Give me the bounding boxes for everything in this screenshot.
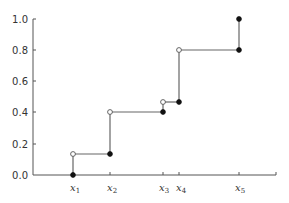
y-tick-label: 0.8 (12, 45, 28, 56)
filled-point (71, 173, 76, 178)
filled-point (177, 100, 182, 105)
filled-point (237, 17, 242, 22)
open-point (177, 48, 182, 53)
filled-points (71, 17, 242, 178)
filled-point (237, 48, 242, 53)
x-tick-label-x3: x3 (159, 182, 169, 195)
y-tick-label: 0.2 (12, 139, 28, 150)
step-function-chart: 0.0 0.2 0.4 0.6 0.8 1.0 x1 x2 x3 x4 x5 (0, 0, 289, 203)
x-tick-label-x2: x2 (107, 182, 117, 195)
y-tick-labels: 0.0 0.2 0.4 0.6 0.8 1.0 (12, 14, 28, 181)
open-point (108, 110, 113, 115)
y-tick-label: 0.6 (12, 76, 28, 87)
y-tick-label: 0.0 (12, 170, 28, 181)
y-tick-label: 1.0 (12, 14, 28, 25)
open-point (71, 152, 76, 157)
open-point (161, 100, 166, 105)
open-points (71, 48, 182, 157)
x-tick-labels: x1 x2 x3 x4 x5 (70, 182, 245, 195)
x-tick-label-x5: x5 (235, 182, 245, 195)
step-series (73, 19, 239, 175)
x-tick-label-x1: x1 (70, 182, 80, 195)
filled-point (108, 152, 113, 157)
x-tick-label-x4: x4 (176, 182, 187, 195)
filled-point (161, 110, 166, 115)
y-tick-label: 0.4 (12, 107, 28, 118)
